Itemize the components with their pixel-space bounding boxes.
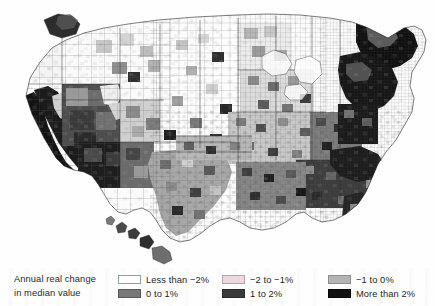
legend-title-line-2: in median value [14, 287, 118, 301]
us-county-choropleth-map [0, 0, 435, 268]
legend-title: Annual real change in median value [14, 272, 118, 300]
choropleth-figure: Annual real change in median value Less … [0, 0, 435, 306]
legend-label-1-to-2: 1 to 2% [250, 288, 282, 300]
legend-item-neg1-to-0[interactable]: −1 to 0% [328, 273, 428, 286]
legend-label-more-than-2: More than 2% [356, 288, 415, 300]
legend-label-less-than-neg2: Less than −2% [146, 274, 209, 286]
legend-title-line-1: Annual real change [14, 273, 118, 287]
map-svg [0, 0, 435, 268]
legend-swatch-1-to-2 [222, 289, 245, 298]
legend-item-more-than-2[interactable]: More than 2% [328, 287, 428, 300]
legend-label-neg1-to-0: −1 to 0% [356, 274, 394, 286]
legend-item-less-than-neg2[interactable]: Less than −2% [118, 273, 222, 286]
legend-label-neg2-to-neg1: −2 to −1% [250, 274, 293, 286]
legend-item-1-to-2[interactable]: 1 to 2% [222, 287, 328, 300]
legend-swatch-neg1-to-0 [328, 275, 351, 284]
legend-item-0-to-1[interactable]: 0 to 1% [118, 287, 222, 300]
legend-item-neg2-to-neg1[interactable]: −2 to −1% [222, 273, 328, 286]
legend-swatch-0-to-1 [118, 289, 141, 298]
legend-items: Less than −2% −2 to −1% −1 to 0% 0 to 1%… [118, 272, 428, 300]
legend-label-0-to-1: 0 to 1% [146, 288, 178, 300]
map-legend: Annual real change in median value Less … [14, 272, 428, 302]
legend-swatch-neg2-to-neg1 [222, 275, 245, 284]
legend-swatch-more-than-2 [328, 289, 351, 298]
legend-swatch-less-than-neg2 [118, 275, 141, 284]
